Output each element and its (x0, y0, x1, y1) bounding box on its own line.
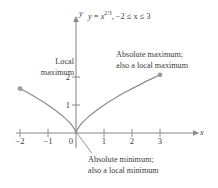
point-local-maximum (18, 86, 23, 91)
equation-eq-sign: = (94, 12, 99, 21)
y-axis-label: y (79, 9, 83, 18)
point-absolute-maximum (158, 72, 163, 77)
annotation-local-maximum: Local maximum (14, 57, 74, 78)
annotation-absolute-minimum-line2: also a local minimum (88, 166, 159, 177)
annotation-absolute-maximum: Absolute maximum; also a local maximum (116, 50, 188, 71)
y-tick-label-1: 1 (58, 100, 70, 110)
annotation-absolute-minimum-line1: Absolute minimum; (88, 155, 159, 166)
x-axis (16, 130, 200, 136)
curve-x-two-thirds (20, 75, 160, 133)
x-tick-label-3: 3 (153, 136, 167, 146)
annotation-absolute-maximum-line2: also a local maximum (116, 61, 188, 72)
equation-domain: , −2 ≤ x ≤ 3 (112, 12, 151, 21)
equation-label: y = x2/3, −2 ≤ x ≤ 3 (88, 12, 151, 21)
annotation-absolute-minimum: Absolute minimum; also a local minimum (88, 155, 159, 176)
annotation-local-maximum-line2: maximum (14, 68, 74, 79)
figure-container: y = x2/3, −2 ≤ x ≤ 3 y x −2 −1 0 1 2 3 1… (0, 0, 218, 188)
x-tick-label-neg2: −2 (12, 136, 28, 146)
annotation-absolute-maximum-line1: Absolute maximum; (116, 50, 188, 61)
x-tick-label-2: 2 (125, 136, 139, 146)
x-axis-label: x (200, 128, 204, 137)
leader-line-absolute-minimum (77, 133, 92, 154)
equation-lhs: y (88, 12, 92, 21)
x-tick-label-neg1: −1 (40, 136, 56, 146)
annotation-local-maximum-line1: Local (14, 57, 74, 68)
x-tick-label-1: 1 (97, 136, 111, 146)
equation-exponent: 2/3 (104, 10, 111, 16)
x-tick-label-0: 0 (64, 136, 78, 146)
